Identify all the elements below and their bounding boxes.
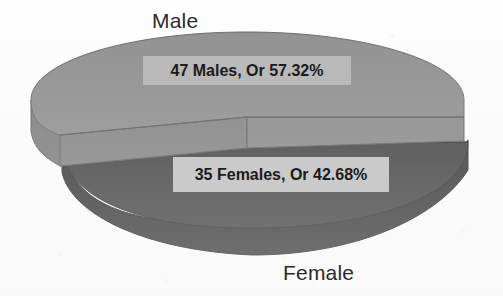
pie-data-label-male: 47 Males, Or 57.32%	[143, 56, 351, 85]
pie-chart-graphic	[0, 0, 503, 296]
pie-category-label-female: Female	[283, 261, 354, 285]
pie-category-label-male: Male	[152, 9, 198, 33]
pie-chart-figure: Male Female 47 Males, Or 57.32% 35 Femal…	[0, 0, 503, 296]
pie-data-label-female: 35 Females, Or 42.68%	[173, 157, 389, 192]
